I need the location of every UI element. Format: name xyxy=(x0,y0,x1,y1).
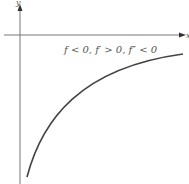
graph: y x f < 0, f′ > 0, f″ < 0 xyxy=(0,0,189,184)
annotation-label: f < 0, f′ > 0, f″ < 0 xyxy=(63,44,158,55)
x-axis-arrow-icon xyxy=(179,33,186,38)
function-curve xyxy=(27,54,183,177)
x-axis-label: x xyxy=(186,31,189,40)
y-axis-label: y xyxy=(15,0,21,7)
